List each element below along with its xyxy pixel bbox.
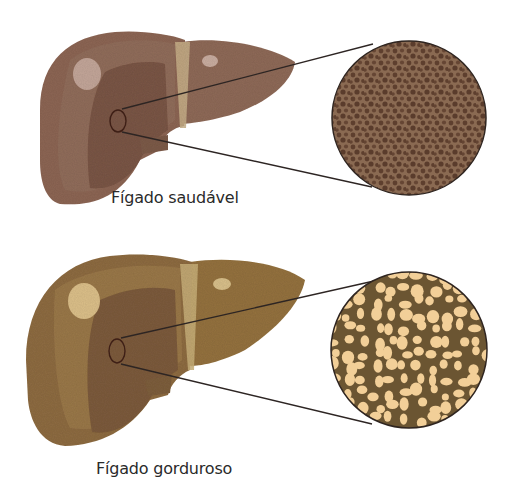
fatty-highlight [68,283,100,319]
healthy-liver-left-lobe [180,40,295,124]
fatty-liver-label: Fígado gorduroso [96,459,232,478]
healthy-callout-line-bottom [122,132,372,187]
fatty-liver [26,254,305,446]
healthy-highlight [73,58,101,90]
healthy-liver [40,31,295,204]
healthy-liver-label: Fígado saudável [111,188,239,207]
healthy-tissue-magnified [332,41,486,195]
liver-comparison-diagram: Fígado saudável Fígado gorduroso [0,0,516,497]
fatty-liver-left-lobe [190,260,305,366]
fatty-tissue-magnified [326,266,497,428]
